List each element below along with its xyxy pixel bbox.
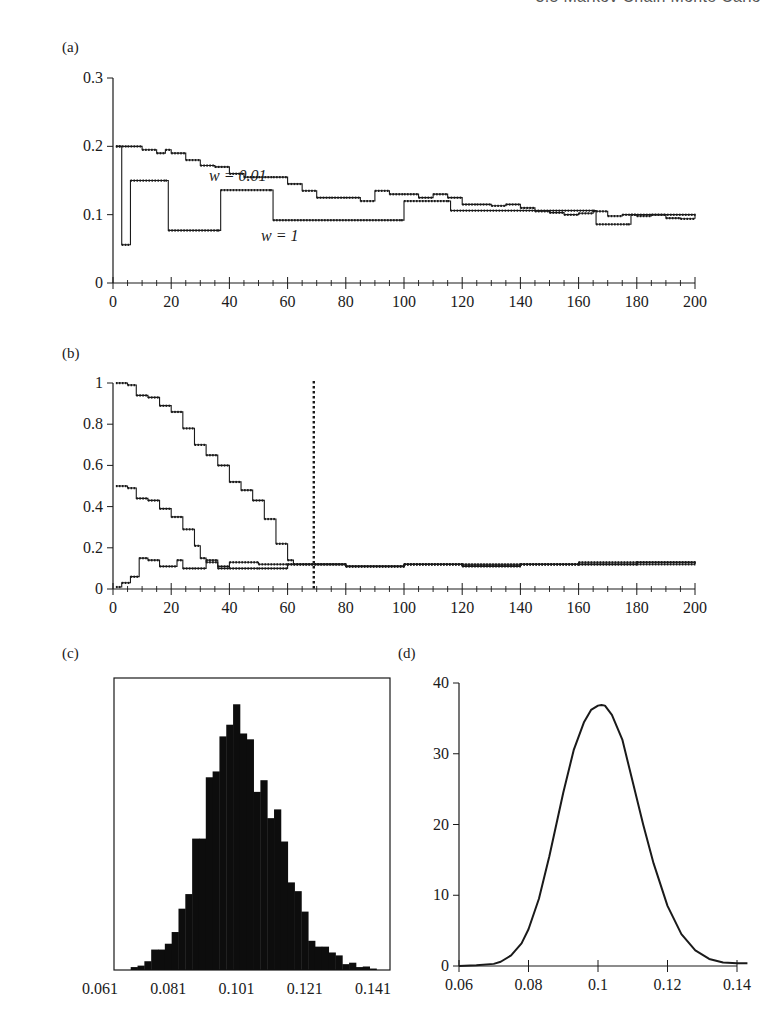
histogram-bar — [185, 894, 192, 970]
x-tick-label: 0 — [109, 599, 117, 616]
histogram-bar — [144, 961, 151, 970]
y-tick-label: 0.2 — [83, 539, 103, 556]
x-tick-label: 180 — [625, 293, 649, 310]
chain-trace-1 — [116, 486, 695, 568]
histogram-bar — [219, 736, 226, 970]
histogram-bar — [349, 963, 356, 970]
histogram-bar — [295, 891, 302, 970]
y-tick-label: 0 — [95, 274, 103, 291]
x-tick-label: 0.081 — [150, 980, 186, 997]
panel-a-label: (a) — [62, 39, 79, 56]
x-tick-label: 200 — [683, 293, 707, 310]
histogram-bar — [199, 839, 206, 970]
y-tick-label: 0.1 — [83, 206, 103, 223]
x-tick-label: 0.14 — [723, 976, 751, 993]
histogram-bar — [356, 967, 363, 970]
y-tick-label: 0.3 — [83, 69, 103, 86]
histogram-bar — [178, 909, 185, 970]
histogram-bar — [308, 941, 315, 970]
x-tick-label: 120 — [450, 599, 474, 616]
x-tick-label: 160 — [567, 293, 591, 310]
x-tick-label: 20 — [163, 599, 179, 616]
histogram-bar — [192, 839, 199, 970]
panel-c-histogram: 0.0610.0810.1010.1210.141 — [82, 678, 391, 997]
x-tick-label: 0.12 — [654, 976, 682, 993]
histogram-bar — [138, 966, 145, 970]
x-tick-label: 0.101 — [219, 980, 255, 997]
histogram-bar — [247, 739, 254, 970]
y-tick-label: 0.2 — [83, 137, 103, 154]
histogram-bar — [213, 771, 220, 970]
panel-c-label: (c) — [62, 645, 79, 662]
x-tick-label: 0.06 — [445, 976, 473, 993]
panel-d-density-plot: 0.060.080.10.120.14010203040 — [433, 674, 751, 993]
x-tick-label: 0.061 — [82, 980, 118, 997]
y-tick-label: 0.6 — [83, 456, 103, 473]
histogram-bar — [335, 955, 342, 970]
histogram-bar — [301, 912, 308, 970]
histogram-bar — [260, 780, 267, 970]
histogram-bar — [158, 950, 165, 970]
x-tick-label: 60 — [280, 599, 296, 616]
histogram-bar — [288, 882, 295, 970]
x-tick-label: 40 — [221, 599, 237, 616]
histogram-bar — [267, 818, 274, 970]
x-tick-label: 40 — [221, 293, 237, 310]
histogram-bar — [254, 792, 261, 970]
x-tick-label: 0 — [109, 293, 117, 310]
y-tick-label: 30 — [433, 745, 449, 762]
y-tick-label: 40 — [433, 674, 449, 691]
chain-trace-0 — [116, 383, 695, 566]
panel-a-trace-plot: 02040608010012014016018020000.10.20.3w =… — [83, 69, 707, 310]
x-tick-label: 20 — [163, 293, 179, 310]
y-tick-label: 0 — [95, 580, 103, 597]
histogram-bar — [281, 842, 288, 970]
density-curve — [459, 705, 747, 966]
x-tick-label: 140 — [508, 293, 532, 310]
x-tick-label: 80 — [338, 599, 354, 616]
histogram-bar — [165, 944, 172, 970]
panel-d-label: (d) — [398, 645, 416, 662]
histogram-bar — [226, 725, 233, 970]
histogram-bar — [206, 777, 213, 970]
histogram-bar — [131, 967, 138, 970]
x-tick-label: 60 — [280, 293, 296, 310]
y-tick-label: 1 — [95, 374, 103, 391]
histogram-bar — [274, 809, 281, 970]
series-line-w-0-01 — [116, 146, 695, 218]
histogram-bar — [322, 947, 329, 970]
y-tick-label: 20 — [433, 816, 449, 833]
x-tick-label: 0.1 — [588, 976, 608, 993]
x-tick-label: 0.121 — [287, 980, 323, 997]
panel-b-convergence-plot: 02040608010012014016018020000.20.40.60.8… — [83, 374, 707, 616]
chain-trace-2 — [116, 558, 695, 587]
figure-canvas: (a) (b) (c) (d) 020406080100120140160180… — [0, 0, 781, 1016]
x-tick-label: 80 — [338, 293, 354, 310]
histogram-bar — [172, 932, 179, 970]
histogram-bar — [240, 733, 247, 970]
histogram-bar — [151, 950, 158, 970]
y-tick-label: 0.4 — [83, 498, 103, 515]
histogram-bar — [329, 952, 336, 970]
annotation-w-1: w = 1 — [261, 227, 298, 244]
x-tick-label: 160 — [567, 599, 591, 616]
x-tick-label: 0.141 — [355, 980, 391, 997]
annotation-w-0-01: w = 0.01 — [209, 167, 266, 184]
histogram-bar — [342, 964, 349, 970]
x-tick-label: 140 — [508, 599, 532, 616]
histogram-bar — [233, 704, 240, 970]
y-tick-label: 0.8 — [83, 415, 103, 432]
x-tick-label: 100 — [392, 293, 416, 310]
x-tick-label: 100 — [392, 599, 416, 616]
x-tick-label: 0.08 — [515, 976, 543, 993]
x-tick-label: 120 — [450, 293, 474, 310]
histogram-bar — [315, 947, 322, 970]
y-tick-label: 0 — [441, 957, 449, 974]
y-tick-label: 10 — [433, 886, 449, 903]
x-tick-label: 200 — [683, 599, 707, 616]
panel-b-label: (b) — [62, 345, 80, 362]
histogram-bar — [370, 969, 377, 970]
histogram-bar — [363, 966, 370, 970]
x-tick-label: 180 — [625, 599, 649, 616]
